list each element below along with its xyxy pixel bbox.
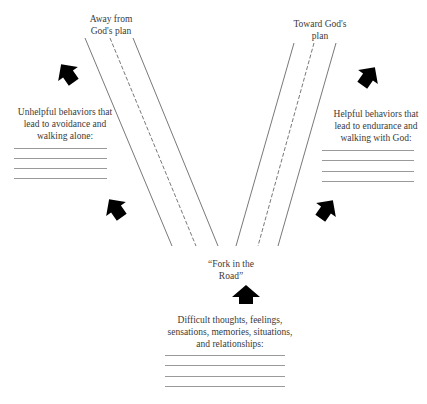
right-road-center-dashed: [258, 43, 314, 246]
label-line: Road”: [196, 270, 266, 282]
difficult-experiences-prompt: Difficult thoughts, feelings, sensations…: [160, 314, 300, 350]
prompt-line: Difficult thoughts, feelings,: [160, 314, 300, 326]
answer-line[interactable]: [322, 150, 414, 151]
arrow-up-icon: [232, 285, 260, 304]
label-line: God's plan: [82, 25, 140, 37]
prompt-line: and relationships:: [160, 338, 300, 350]
arrow-up-right-icon: [310, 193, 342, 225]
fork-in-the-road-label: “Fork in the Road”: [196, 258, 266, 282]
answer-line[interactable]: [165, 376, 285, 377]
toward-gods-plan-label: Toward God's plan: [284, 18, 356, 42]
answer-line[interactable]: [322, 181, 414, 182]
answer-line[interactable]: [165, 365, 285, 366]
prompt-line: lead to avoidance and: [10, 118, 120, 130]
left-road-edge-outer: [85, 38, 172, 246]
prompt-line: lead to endurance and: [326, 120, 426, 132]
prompt-line: walking with God:: [326, 132, 426, 144]
answer-line[interactable]: [165, 386, 285, 387]
unhelpful-behaviors-prompt: Unhelpful behaviors that lead to avoidan…: [10, 106, 120, 142]
answer-line[interactable]: [14, 178, 107, 179]
prompt-line: Helpful behaviors that: [326, 108, 426, 120]
helpful-behaviors-prompt: Helpful behaviors that lead to endurance…: [326, 108, 426, 144]
right-road-edge-inner: [236, 43, 294, 246]
answer-line[interactable]: [14, 158, 107, 159]
arrow-up-right-icon: [352, 60, 384, 92]
label-line: “Fork in the: [196, 258, 266, 270]
left-road-edge-inner: [133, 38, 218, 246]
prompt-line: Unhelpful behaviors that: [10, 106, 120, 118]
prompt-line: walking alone:: [10, 130, 120, 142]
away-from-gods-plan-label: Away from God's plan: [82, 13, 140, 37]
answer-line[interactable]: [322, 160, 414, 161]
answer-line[interactable]: [14, 168, 107, 169]
answer-line[interactable]: [165, 355, 285, 356]
answer-line[interactable]: [322, 171, 414, 172]
label-line: plan: [284, 30, 356, 42]
label-line: Toward God's: [284, 18, 356, 30]
label-line: Away from: [82, 13, 140, 25]
arrow-up-left-icon: [99, 192, 131, 224]
prompt-line: sensations, memories, situations,: [160, 326, 300, 338]
arrow-up-left-icon: [51, 57, 83, 89]
answer-line[interactable]: [14, 148, 107, 149]
